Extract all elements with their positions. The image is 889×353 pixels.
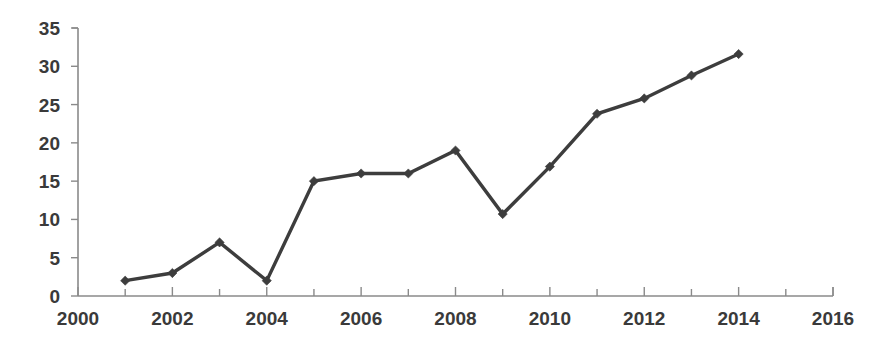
y-tick-label-20: 20 xyxy=(39,133,60,154)
x-tick-label-2002: 2002 xyxy=(151,308,193,329)
data-point-2001 xyxy=(121,276,130,285)
y-tick-label-5: 5 xyxy=(49,248,60,269)
y-tick-label-15: 15 xyxy=(39,171,61,192)
x-tick-label-2008: 2008 xyxy=(434,308,476,329)
y-tick-label-10: 10 xyxy=(39,209,60,230)
y-tick-label-25: 25 xyxy=(39,95,61,116)
x-tick-label-2010: 2010 xyxy=(529,308,571,329)
x-tick-label-2000: 2000 xyxy=(57,308,99,329)
chart-plot-area: 0510152025303520002002200420062008201020… xyxy=(0,0,889,353)
line-chart: 0510152025303520002002200420062008201020… xyxy=(0,0,889,353)
x-tick-label-2006: 2006 xyxy=(340,308,382,329)
x-tick-label-2012: 2012 xyxy=(623,308,665,329)
y-tick-label-0: 0 xyxy=(49,286,60,307)
x-tick-label-2004: 2004 xyxy=(246,308,289,329)
y-tick-label-35: 35 xyxy=(39,18,61,39)
y-tick-label-30: 30 xyxy=(39,56,60,77)
data-point-2006 xyxy=(357,169,366,178)
x-tick-label-2016: 2016 xyxy=(812,308,854,329)
series-line xyxy=(125,54,738,281)
x-tick-label-2014: 2014 xyxy=(717,308,760,329)
